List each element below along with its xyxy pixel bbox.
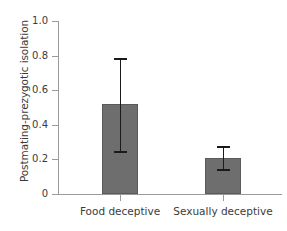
y-tick-label: 0.4 <box>4 120 48 130</box>
x-tick-label: Sexually deceptive <box>158 205 287 217</box>
y-tick-mark <box>52 125 58 126</box>
y-tick-label: 1.0 <box>4 16 48 26</box>
bar-chart-figure: Postmating-prezygotic isolation 00.20.40… <box>0 0 287 231</box>
y-tick-mark <box>52 21 58 22</box>
x-tick-mark <box>223 195 224 201</box>
y-axis-line <box>58 21 59 195</box>
y-tick-mark <box>52 56 58 57</box>
error-bar-cap-upper <box>217 146 230 148</box>
x-tick-mark <box>120 195 121 201</box>
error-bar-line <box>223 147 224 169</box>
error-bar-line <box>120 59 121 152</box>
y-axis-label: Postmating-prezygotic isolation <box>16 6 32 196</box>
error-bar-cap-upper <box>114 58 127 60</box>
error-bar-cap-lower <box>217 169 230 171</box>
y-tick-mark <box>52 159 58 160</box>
y-tick-mark <box>52 90 58 91</box>
y-tick-mark <box>52 194 58 195</box>
y-tick-label: 0.6 <box>4 85 48 95</box>
y-tick-label: 0 <box>4 189 48 199</box>
y-tick-label: 0.8 <box>4 51 48 61</box>
error-bar-cap-lower <box>114 151 127 153</box>
y-tick-label: 0.2 <box>4 154 48 164</box>
x-axis-line <box>58 194 282 195</box>
